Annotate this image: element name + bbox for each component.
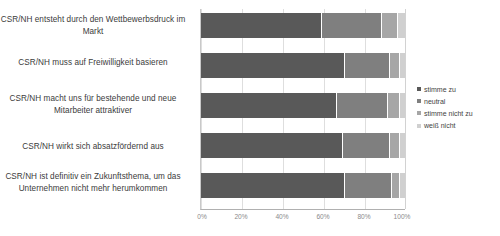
bar-segment [201,13,321,38]
legend-item[interactable]: stimme zu [417,83,497,95]
legend-swatch-icon [417,124,421,128]
category-axis-labels: CSR/NH entsteht durch den Wettbewerbsdru… [0,0,196,210]
bar-segment [336,93,387,118]
bar-segment [201,93,336,118]
x-axis-tick-labels: 0% 20% 40% 60% 80% 100% [200,213,405,227]
bar-row [201,173,405,198]
x-axis-tick: 20% [234,213,247,220]
legend-swatch-icon [417,99,421,103]
category-label: CSR/NH wirkt sich absatzfördernd aus [0,141,188,153]
chart-legend: stimme zu neutral stimme nicht zu weiß n… [417,83,497,132]
bar-segment [397,13,405,38]
legend-label: neutral [424,98,445,105]
bar-segment [399,53,405,78]
bar-row [201,13,405,38]
bar-segment [342,133,389,158]
bar-segment [201,133,342,158]
x-axis-tick: 0% [197,213,207,220]
bar-segment [344,173,391,198]
x-axis-tick: 40% [275,213,288,220]
bar-segment [399,93,405,118]
x-axis-tick: 60% [316,213,329,220]
category-label: CSR/NH macht uns für bestehende und neue… [0,93,188,116]
legend-item[interactable]: stimme nicht zu [417,107,497,119]
bar-segment [381,13,397,38]
legend-label: stimme nicht zu [424,110,473,117]
bar-segment [389,53,399,78]
legend-swatch-icon [417,111,421,115]
legend-label: weiß nicht [424,122,456,129]
bar-segment [399,173,405,198]
bar-segment [387,93,399,118]
bar-segment [201,53,344,78]
category-label: CSR/NH ist definitiv ein Zukunftsthema, … [0,171,188,194]
category-label: CSR/NH muss auf Freiwilligkeit basieren [0,57,188,69]
bar-row [201,53,405,78]
bar-segment [399,133,405,158]
x-axis-tick: 80% [357,213,370,220]
gridline [405,9,406,209]
plot-area [200,9,405,210]
bar-segment [389,133,399,158]
stacked-bar-chart: CSR/NH entsteht durch den Wettbewerbsdru… [0,0,500,236]
legend-item[interactable]: neutral [417,95,497,107]
legend-label: stimme zu [424,86,456,93]
bar-segment [391,173,399,198]
bar-segment [321,13,380,38]
x-axis-tick: 100% [394,213,411,220]
bar-row [201,133,405,158]
bar-row [201,93,405,118]
bar-segment [201,173,344,198]
legend-item[interactable]: weiß nicht [417,120,497,132]
bar-segment [344,53,389,78]
category-label: CSR/NH entsteht durch den Wettbewerbsdru… [0,14,188,37]
legend-swatch-icon [417,87,421,91]
